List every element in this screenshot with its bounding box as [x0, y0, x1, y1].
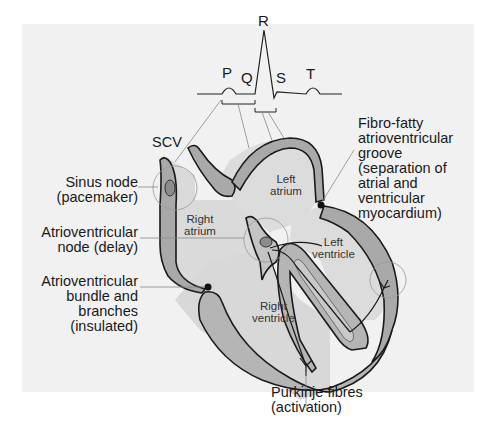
label-scv: SCV	[152, 135, 182, 150]
sinus-node	[165, 180, 175, 196]
av-groove-dot-left	[318, 202, 325, 209]
label-fibro-fatty-groove: Fibro-fatty atrioventricular groove (sep…	[358, 116, 453, 221]
ecg-trace	[197, 30, 342, 112]
av-node	[260, 237, 272, 247]
ecg-label-q: Q	[241, 70, 253, 85]
label-right-atrium: Right atrium	[184, 213, 216, 237]
label-av-node: Atrioventricular node (delay)	[41, 225, 138, 255]
av-groove-dot-right	[205, 284, 212, 291]
label-left-atrium: Left atrium	[270, 173, 302, 197]
label-av-bundle: Atrioventricular bundle and branches (in…	[41, 274, 138, 334]
label-purkinje-fibres: Purkinje fibres (activation)	[271, 385, 363, 415]
ecg-label-p: P	[222, 65, 232, 80]
ecg-label-t: T	[306, 66, 315, 81]
ecg-label-r: R	[258, 13, 269, 28]
label-sinus-node: Sinus node (pacemaker)	[57, 175, 138, 205]
label-left-ventricle: Left ventricle	[312, 236, 355, 260]
ecg-label-s: S	[276, 70, 286, 85]
label-right-ventricle: Right ventricle	[252, 300, 295, 324]
